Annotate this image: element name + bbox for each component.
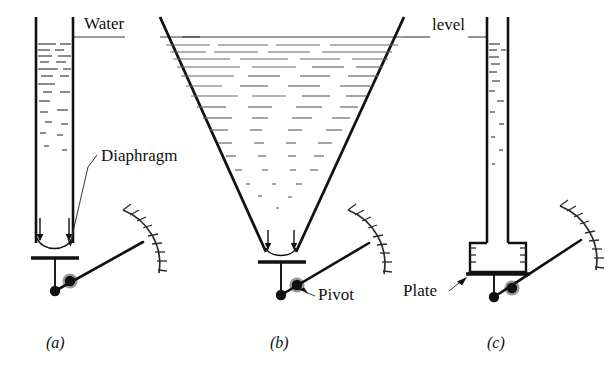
plate-leader-arrowhead [457, 277, 467, 286]
subfigure-b-caption: (b) [270, 334, 289, 352]
level-label: level [432, 15, 465, 34]
pivot-label: Pivot [318, 285, 354, 304]
gauge-needle-c [494, 240, 581, 297]
hydrostatic-paradox-diagram: Water Diaphragm (a) [0, 0, 616, 375]
gauge-ticks-c [560, 200, 604, 268]
figure-container: Water Diaphragm (a) [0, 0, 616, 375]
subfigure-c: level Plate (c) [403, 15, 604, 352]
plate-label: Plate [403, 281, 437, 300]
water-hatching-a [38, 44, 71, 150]
gauge-b [348, 204, 392, 274]
diaphragm-membrane-b [266, 248, 296, 256]
diaphragm-label: Diaphragm [101, 146, 177, 165]
water-hatching-b [166, 45, 398, 208]
subfigure-a: Water Diaphragm (a) [31, 14, 177, 352]
pressure-arrows-a [37, 218, 73, 241]
water-hatching-c [489, 44, 506, 164]
gauge-ticks-b [348, 204, 392, 272]
gauge-a [123, 204, 167, 273]
subfigure-a-caption: (a) [46, 334, 65, 352]
water-label: Water [84, 14, 124, 33]
subfigure-c-caption: (c) [487, 334, 505, 352]
gauge-needle-a [55, 242, 143, 291]
chamber-side-marks-c [470, 248, 526, 262]
gauge-ticks-a [123, 204, 167, 271]
diaphragm-membrane-a [37, 238, 72, 249]
pressure-arrows-b [265, 230, 297, 250]
chamber-box-c [470, 243, 526, 272]
subfigure-b: Pivot (b) [160, 17, 404, 352]
plate-leader-line [449, 283, 459, 291]
gauge-c [560, 200, 604, 270]
